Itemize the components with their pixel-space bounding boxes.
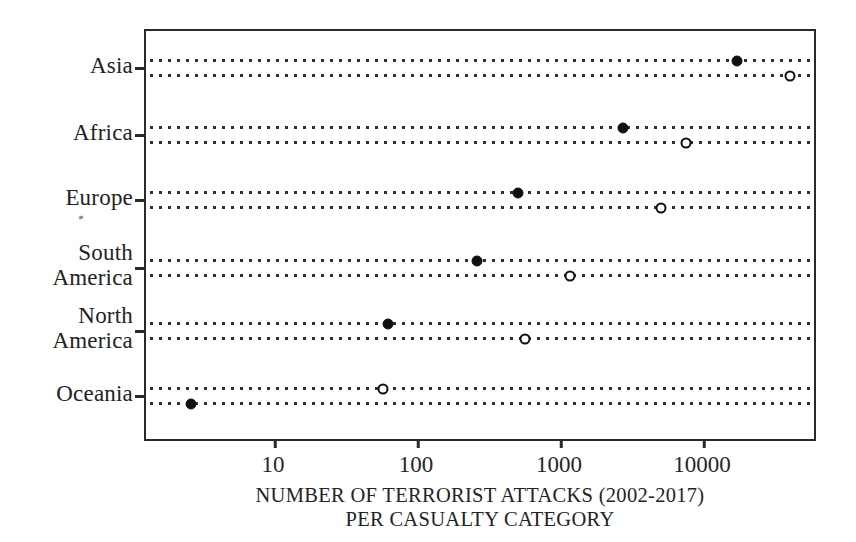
y-axis-tick bbox=[135, 330, 146, 333]
data-point-open-circle[interactable] bbox=[785, 70, 796, 81]
x-axis-tick-label: 10000 bbox=[673, 452, 731, 478]
x-axis-tick bbox=[560, 439, 563, 448]
dotted-leader-line bbox=[146, 141, 814, 144]
y-axis-label-line: America bbox=[52, 265, 133, 290]
dotted-leader-line bbox=[146, 337, 814, 340]
dotted-leader-line bbox=[146, 322, 814, 325]
y-axis-label-line: Africa bbox=[73, 120, 133, 145]
y-axis-label-asia: Asia bbox=[90, 53, 133, 78]
x-axis-tick bbox=[703, 439, 706, 448]
dotted-leader-line bbox=[146, 59, 814, 62]
x-axis-title: NUMBER OF TERRORIST ATTACKS (2002-2017) … bbox=[144, 483, 816, 531]
y-axis-tick bbox=[135, 395, 146, 398]
data-point-open-circle[interactable] bbox=[519, 333, 530, 344]
y-axis-label-line: Europe bbox=[65, 185, 133, 210]
dotted-leader-line bbox=[146, 402, 814, 405]
y-axis-label-europe: Europe bbox=[65, 185, 133, 210]
y-axis-tick bbox=[135, 199, 146, 202]
data-point-filled-circle[interactable] bbox=[186, 398, 197, 409]
x-axis-tick bbox=[274, 439, 277, 448]
y-axis-label-line: Asia bbox=[90, 53, 133, 78]
y-axis-label-line: South bbox=[52, 240, 133, 265]
x-axis-title-line2: PER CASUALTY CATEGORY bbox=[144, 507, 816, 531]
data-point-filled-circle[interactable] bbox=[731, 55, 742, 66]
x-axis-tick-label: 10 bbox=[262, 452, 285, 478]
dotted-leader-line bbox=[146, 387, 814, 390]
data-point-filled-circle[interactable] bbox=[383, 318, 394, 329]
y-axis-tick bbox=[135, 67, 146, 70]
x-axis-tick-label: 1000 bbox=[536, 452, 582, 478]
data-point-open-circle[interactable] bbox=[681, 137, 692, 148]
y-axis-labels: AsiaAfricaEuropeSouthAmericaNorthAmerica… bbox=[0, 0, 133, 542]
y-axis-label-south-america: SouthAmerica bbox=[52, 240, 133, 290]
data-point-open-circle[interactable] bbox=[655, 202, 666, 213]
y-axis-tick bbox=[135, 134, 146, 137]
x-axis-title-line1: NUMBER OF TERRORIST ATTACKS (2002-2017) bbox=[144, 483, 816, 507]
y-axis-label-north-america: NorthAmerica bbox=[52, 303, 133, 353]
data-point-open-circle[interactable] bbox=[564, 270, 575, 281]
data-point-filled-circle[interactable] bbox=[617, 122, 628, 133]
data-point-filled-circle[interactable] bbox=[472, 255, 483, 266]
y-axis-label-line: America bbox=[52, 328, 133, 353]
y-axis-label-oceania: Oceania bbox=[56, 381, 133, 406]
dotted-leader-line bbox=[146, 126, 814, 129]
data-point-open-circle[interactable] bbox=[378, 383, 389, 394]
dotted-leader-line bbox=[146, 206, 814, 209]
x-axis-tick bbox=[417, 439, 420, 448]
y-axis-label-line: Oceania bbox=[56, 381, 133, 406]
y-axis-tick bbox=[135, 267, 146, 270]
dotted-leader-line bbox=[146, 191, 814, 194]
x-axis-tick-label: 100 bbox=[399, 452, 434, 478]
dotted-leader-line bbox=[146, 274, 814, 277]
chart-figure: AsiaAfricaEuropeSouthAmericaNorthAmerica… bbox=[0, 0, 856, 542]
y-axis-label-line: North bbox=[52, 303, 133, 328]
y-axis-label-africa: Africa bbox=[73, 120, 133, 145]
plot-area bbox=[144, 29, 816, 441]
dotted-leader-line bbox=[146, 74, 814, 77]
data-point-filled-circle[interactable] bbox=[512, 187, 523, 198]
